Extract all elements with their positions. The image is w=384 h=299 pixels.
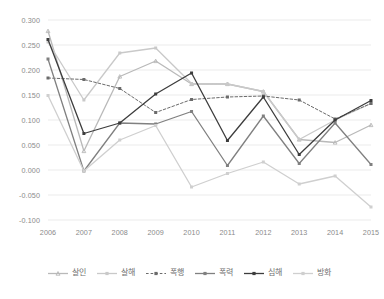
series-4	[47, 58, 373, 173]
data-point	[190, 98, 193, 101]
chart-legend: 살인살해폭행폭력심해방화	[0, 262, 378, 284]
legend-marker-icon	[145, 269, 167, 278]
data-point	[118, 52, 121, 55]
data-point	[226, 139, 229, 142]
series-line	[48, 31, 371, 151]
x-axis-tick-label: 2006	[31, 228, 65, 237]
x-axis-tick-label: 2015	[354, 228, 384, 237]
data-point	[370, 163, 373, 166]
series-1	[46, 29, 373, 153]
data-point	[47, 58, 50, 61]
data-point	[118, 139, 121, 142]
data-point	[262, 96, 265, 99]
data-point	[226, 96, 229, 99]
gridlines	[48, 20, 371, 220]
x-axis-tick-label: 2010	[175, 228, 209, 237]
data-point	[226, 172, 229, 175]
data-point	[298, 99, 301, 102]
legend-item-4[interactable]: 폭력	[194, 269, 233, 278]
legend-marker-icon	[243, 269, 265, 278]
y-axis-tick-label: 0.000	[6, 166, 40, 175]
series-layer	[46, 29, 373, 208]
legend-item-6[interactable]: 방화	[292, 269, 331, 278]
data-point	[190, 110, 193, 113]
data-point	[47, 94, 50, 97]
x-axis-tick-label: 2014	[318, 228, 352, 237]
y-axis-tick-label: 0.300	[6, 16, 40, 25]
y-axis-tick-label: 0.250	[6, 41, 40, 50]
legend-item-5[interactable]: 심해	[243, 269, 282, 278]
data-point	[82, 99, 85, 102]
data-point	[190, 72, 193, 75]
data-point	[118, 87, 121, 90]
data-point	[82, 78, 85, 81]
legend-label: 살인	[72, 269, 86, 277]
data-point	[226, 83, 229, 86]
data-point	[154, 111, 157, 114]
data-point	[118, 122, 121, 125]
data-point	[154, 93, 157, 96]
legend-marker-icon	[292, 269, 314, 278]
data-point	[370, 206, 373, 209]
x-axis-tick-label: 2008	[103, 228, 137, 237]
legend-label: 심해	[268, 269, 282, 277]
series-line	[48, 59, 371, 171]
data-point	[154, 47, 157, 50]
data-point	[190, 82, 193, 85]
data-point	[154, 124, 157, 127]
x-axis-tick-label: 2011	[210, 228, 244, 237]
legend-label: 방화	[317, 269, 331, 277]
data-point	[82, 132, 85, 135]
data-point	[370, 99, 373, 102]
data-point	[298, 183, 301, 186]
legend-marker-icon	[47, 269, 69, 278]
y-axis-tick-label: 0.200	[6, 66, 40, 75]
data-point	[47, 77, 50, 80]
data-point	[82, 170, 85, 173]
legend-item-3[interactable]: 폭행	[145, 269, 184, 278]
data-point	[262, 115, 265, 118]
y-axis-tick-label: -0.100	[6, 216, 40, 225]
data-point	[190, 186, 193, 189]
legend-label: 살해	[121, 269, 135, 277]
x-axis-tick-label: 2009	[139, 228, 173, 237]
y-axis-tick-label: -0.050	[6, 191, 40, 200]
data-point	[298, 162, 301, 165]
data-point	[334, 122, 337, 125]
legend-label: 폭력	[219, 269, 233, 277]
data-point	[226, 164, 229, 167]
data-point	[334, 119, 337, 122]
data-point	[47, 38, 50, 41]
data-point	[262, 90, 265, 93]
data-point	[334, 175, 337, 178]
series-line	[48, 96, 371, 208]
legend-item-1[interactable]: 살인	[47, 269, 86, 278]
data-point	[298, 138, 301, 141]
data-point	[370, 102, 373, 105]
series-6	[47, 94, 373, 209]
data-point	[262, 161, 265, 164]
y-axis-tick-label: 0.150	[6, 91, 40, 100]
y-axis-tick-label: 0.100	[6, 116, 40, 125]
legend-label: 폭행	[170, 269, 184, 277]
x-axis-tick-label: 2013	[282, 228, 316, 237]
legend-marker-icon	[194, 269, 216, 278]
x-axis-tick-label: 2007	[67, 228, 101, 237]
legend-item-2[interactable]: 살해	[96, 269, 135, 278]
data-point	[298, 153, 301, 156]
x-axis-tick-label: 2012	[246, 228, 280, 237]
y-axis-tick-label: 0.050	[6, 141, 40, 150]
legend-marker-icon	[96, 269, 118, 278]
